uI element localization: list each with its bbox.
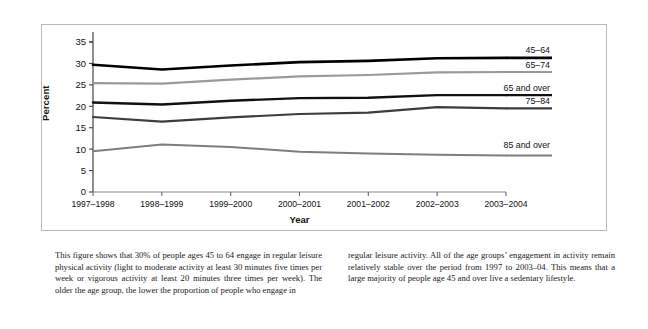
x-axis-tick-label: 2002–2003 [416,199,459,209]
series-line [93,58,506,70]
x-axis-tick-label: 1997–1998 [71,199,114,209]
series-legend-label: 75–84 [526,96,551,106]
y-axis-tick-label: 35 [75,36,86,47]
y-axis-tick-label: 0 [81,186,86,197]
chart-plot-area: Percent 051015202530351997–19981998–1999… [42,25,606,230]
series-legend-label: 85 and over [504,140,551,150]
y-axis-tick-label: 20 [75,101,86,112]
y-axis-tick-label: 30 [75,58,86,69]
x-axis-tick-label: 2003–2004 [484,199,527,209]
y-axis-tick-label: 25 [75,79,86,90]
x-axis-tick-label: 1998–1999 [140,199,183,209]
series-legend-label: 65–74 [526,60,551,70]
series-line [93,144,506,155]
caption-column-right: regular leisure activity. All of the age… [348,250,615,316]
x-axis-title: Year [289,214,309,225]
y-axis-title: Percent [40,85,51,121]
series-legend-label: 65 and over [504,83,551,93]
x-axis-tick-label: 2000–2001 [278,199,321,209]
figure-panel: Percent 051015202530351997–19981998–1999… [41,24,607,231]
series-legend-label: 45–64 [526,45,551,55]
x-axis-tick-label: 2001–2002 [347,199,390,209]
line-chart: 051015202530351997–19981998–19991999–200… [42,25,606,230]
y-axis-tick-label: 10 [75,144,86,155]
y-axis-tick-label: 5 [81,165,86,176]
x-axis-tick-label: 1999–2000 [209,199,252,209]
figure-caption: This figure shows that 30% of people age… [55,250,615,316]
series-line [93,95,506,104]
series-line [93,107,506,122]
caption-column-left: This figure shows that 30% of people age… [55,250,322,316]
y-axis-tick-label: 15 [75,122,86,133]
series-line [93,72,506,84]
